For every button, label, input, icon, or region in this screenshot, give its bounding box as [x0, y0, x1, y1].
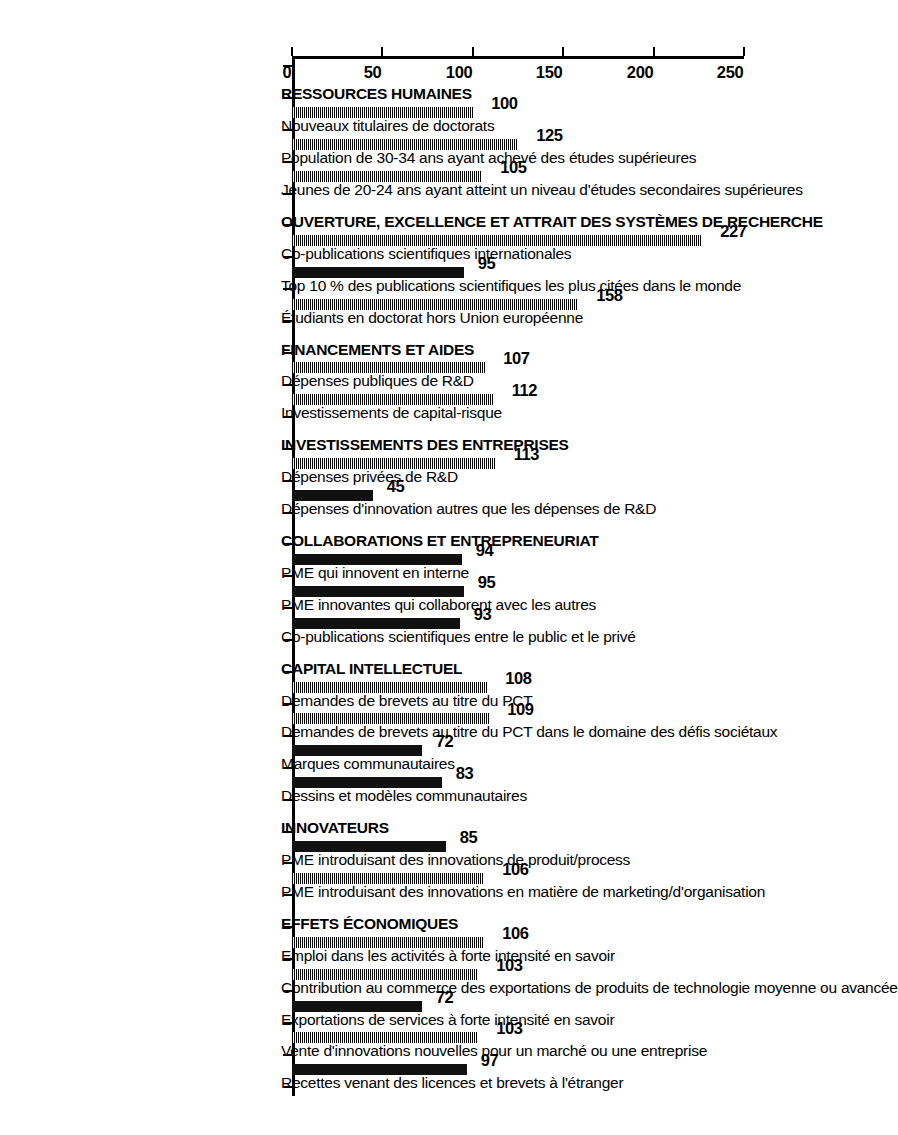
y-axis-tick-label-wrap: 250 [743, 43, 744, 73]
bar-value-label: 106 [502, 924, 528, 943]
x-axis-category-label: PME innovantes qui collaborent avec les … [281, 597, 596, 613]
y-axis-line [292, 56, 744, 59]
x-axis-group-label: INVESTISSEMENTS DES ENTREPRISES [281, 437, 569, 453]
y-axis-tick-label-wrap: 200 [653, 43, 654, 73]
x-axis-category-label: Étudiants en doctorat hors Union europée… [281, 310, 583, 326]
x-axis-category-label: Demandes de brevets au titre du PCT dans… [281, 724, 777, 740]
bar-value-label: 108 [505, 669, 531, 688]
x-axis-category-label: Recettes venant des licences et brevets … [281, 1075, 623, 1091]
y-axis-tick-label: 150 [536, 64, 563, 83]
x-axis-group-label: RESSOURCES HUMAINES [281, 86, 472, 102]
plot-area: 050100150200250 100125105227951581071121… [292, 56, 744, 1096]
x-axis-category-label: Dépenses d'innovation autres que les dép… [281, 501, 656, 517]
y-axis-tick-label-wrap: 50 [381, 43, 382, 73]
y-axis-tick-label: 200 [626, 64, 653, 83]
x-axis-category-label: PME introduisant des innovations en mati… [281, 884, 765, 900]
x-axis-tick [283, 65, 292, 67]
x-axis-category-label: Contribution au commerce des exportation… [281, 980, 898, 996]
x-axis-group-label: CAPITAL INTELLECTUEL [281, 661, 462, 677]
x-axis-category-label: Nouveaux titulaires de doctorats [281, 118, 494, 134]
x-axis-group-label: FINANCEMENTS ET AIDES [281, 342, 474, 358]
x-axis-category-label: Exportations de services à forte intensi… [281, 1012, 614, 1028]
y-axis-tick-label: 250 [717, 64, 744, 83]
bar-value-label: 112 [512, 381, 537, 400]
x-axis-category-label: Jeunes de 20-24 ans ayant atteint un niv… [281, 182, 803, 198]
x-axis-category-label: Co-publications scientifiques internatio… [281, 246, 571, 262]
bar-value-label: 107 [504, 349, 530, 368]
x-axis-category-label: PME qui innovent en interne [281, 565, 469, 581]
x-axis-category-label: Emploi dans les activités à forte intens… [281, 948, 615, 964]
x-axis-category-label: Marques communautaires [281, 756, 455, 772]
x-axis-category-label: Dessins et modèles communautaires [281, 788, 527, 804]
x-axis-group-label: EFFETS ÉCONOMIQUES [281, 916, 458, 932]
x-axis-category-label: Top 10 % des publications scientifiques … [281, 278, 741, 294]
bar-value-label: 125 [536, 126, 562, 145]
x-axis-category-label: Dépenses publiques de R&D [281, 373, 474, 389]
bar-value-label: 85 [459, 828, 477, 847]
y-axis-tick-label: 100 [446, 64, 473, 83]
x-axis-category-label: Dépenses privées de R&D [281, 469, 458, 485]
x-axis-category-label: Demandes de brevets au titre du PCT [281, 693, 532, 709]
x-axis-group-label: OUVERTURE, EXCELLENCE ET ATTRAIT DES SYS… [281, 214, 823, 230]
x-axis-category-label: Vente d'innovations nouvelles pour un ma… [281, 1043, 707, 1059]
bar-value-label: 95 [478, 573, 496, 592]
y-axis-tick-label-wrap: 150 [562, 43, 563, 73]
bar-value-label: 83 [456, 764, 474, 783]
x-axis-category-label: Investissements de capital-risque [281, 405, 502, 421]
y-axis-tick-label-wrap: 0 [291, 43, 292, 73]
y-axis-tick-label: 50 [364, 64, 382, 83]
x-axis-group-label: INNOVATEURS [281, 820, 389, 836]
x-axis-category-label: Co-publications scientifiques entre le p… [281, 629, 636, 645]
x-axis-group-label: COLLABORATIONS ET ENTREPRENEURIAT [281, 533, 599, 549]
y-axis-tick-label-wrap: 100 [472, 43, 473, 73]
x-axis-category-label: Population de 30-34 ans ayant achevé des… [281, 150, 696, 166]
x-axis-category-label: PME introduisant des innovations de prod… [281, 852, 630, 868]
bar-value-label: 100 [491, 94, 517, 113]
